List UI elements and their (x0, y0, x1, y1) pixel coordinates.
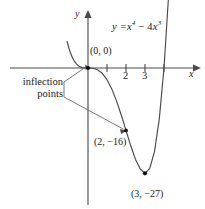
marked-point-dots (86, 66, 147, 175)
equation-term2-exponent: 3 (158, 19, 162, 27)
origin-point-label: (0, 0) (90, 45, 112, 56)
inflection-points-label: inflection points (8, 76, 63, 100)
equation-term1-exponent: 4 (132, 19, 136, 27)
inflection-leader-lines (64, 64, 126, 133)
x-tick-label-2: 2 (123, 70, 128, 81)
x-axis-label: x (189, 68, 193, 79)
inflection-point-2-label: (2, −16) (94, 136, 126, 147)
dot-origin (86, 66, 90, 70)
equation-lhs: y = (112, 21, 127, 32)
y-axis-label: y (75, 8, 79, 19)
inflection-points-label-line1: inflection (8, 76, 63, 88)
inflection-points-label-line2: points (8, 88, 63, 100)
graph-canvas (0, 0, 205, 209)
minimum-point-label: (3, −27) (131, 188, 163, 199)
x-axis (10, 64, 201, 71)
equation-operator: − (138, 21, 144, 32)
x-tick-label-3: 3 (142, 70, 147, 81)
dot-minimum-3 (143, 171, 147, 175)
y-axis (84, 10, 91, 205)
function-graph-figure: y =x4 − 4x3 (0, 0) 2 3 x y inflection po… (0, 0, 205, 209)
equation-label: y =x4 − 4x3 (112, 18, 161, 32)
dot-inflection-2 (124, 129, 128, 133)
